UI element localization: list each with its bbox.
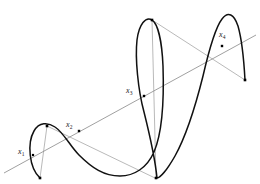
chord-left-lobe [40,126,47,178]
root-point-x4 [221,45,223,47]
label-subscript: 1 [22,151,25,157]
vertex-right-end [244,79,247,82]
vertex-left-lobe-bottom [39,177,42,180]
axis-label-x4: x4 [219,31,225,39]
curve-group [30,15,245,178]
figure-canvas: x1x2x3x4 [0,0,260,184]
vertex-curve-trough [155,177,158,180]
root-point-x3 [143,95,145,97]
label-subscript: 4 [223,34,226,40]
axis-label-x3: x3 [126,87,132,95]
label-subscript: 3 [130,90,133,96]
wave-curve [30,15,245,178]
secant-line-group [4,35,256,173]
axis-label-x1: x1 [18,148,24,156]
root-point-x1 [32,154,34,156]
vertex-curve-peak [151,19,154,22]
label-subscript: 2 [70,124,73,130]
chords-group [40,20,245,178]
secant-line [4,35,256,173]
root-point-x2 [78,130,80,132]
chord-peak-to-right-end [152,20,245,80]
axis-label-x2: x2 [66,121,72,129]
vertex-left-lobe-top [46,125,49,128]
